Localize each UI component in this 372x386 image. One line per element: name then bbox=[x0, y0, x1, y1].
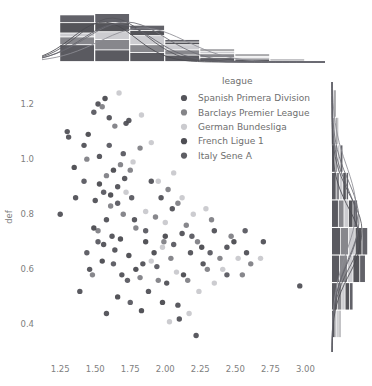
data-point bbox=[185, 278, 190, 283]
data-point bbox=[212, 280, 217, 285]
data-point bbox=[228, 234, 233, 239]
legend-marker-1 bbox=[181, 109, 187, 115]
data-point bbox=[163, 220, 168, 225]
y-tick-label: 0.4 bbox=[20, 319, 34, 329]
right-hist-bar bbox=[338, 118, 339, 144]
right-hist-bar bbox=[340, 311, 341, 337]
x-tick-label: 1.25 bbox=[51, 364, 70, 374]
data-point bbox=[153, 214, 158, 219]
data-point bbox=[212, 228, 217, 233]
top-hist-bar bbox=[130, 53, 164, 61]
data-point bbox=[126, 118, 131, 123]
top-hist-bar bbox=[270, 59, 304, 60]
data-point bbox=[181, 272, 186, 277]
top-hist-bar bbox=[200, 50, 234, 51]
data-point bbox=[111, 167, 116, 172]
x-tick-label: 2.25 bbox=[191, 364, 210, 374]
legend-label-3: French Ligue 1 bbox=[198, 136, 264, 146]
data-point bbox=[139, 308, 144, 313]
data-point bbox=[163, 234, 168, 239]
data-point bbox=[179, 231, 184, 236]
data-point bbox=[143, 228, 148, 233]
data-point bbox=[209, 217, 214, 222]
data-point bbox=[161, 239, 166, 244]
data-point bbox=[128, 300, 133, 305]
data-point bbox=[240, 272, 245, 277]
data-point bbox=[66, 134, 71, 139]
data-point bbox=[167, 319, 172, 324]
data-point bbox=[133, 225, 138, 230]
y-tick-label: 1.2 bbox=[20, 99, 34, 109]
data-point bbox=[146, 289, 151, 294]
data-point bbox=[128, 167, 133, 172]
data-point bbox=[121, 212, 126, 217]
legend-marker-3 bbox=[181, 138, 187, 144]
data-point bbox=[97, 154, 102, 159]
top-hist-bar bbox=[165, 43, 199, 45]
data-point bbox=[220, 267, 225, 272]
data-point bbox=[231, 239, 236, 244]
data-point bbox=[175, 201, 180, 206]
data-point bbox=[188, 250, 193, 255]
y-tick-label: 0.6 bbox=[20, 264, 34, 274]
data-point bbox=[242, 228, 247, 233]
data-point bbox=[84, 156, 89, 161]
data-point bbox=[112, 123, 117, 128]
data-point bbox=[170, 206, 175, 211]
data-point bbox=[133, 267, 138, 272]
data-point bbox=[102, 96, 107, 101]
data-point bbox=[224, 272, 229, 277]
data-point bbox=[104, 311, 109, 316]
legend-title: league bbox=[222, 76, 253, 86]
data-point bbox=[174, 269, 179, 274]
data-point bbox=[156, 178, 161, 183]
data-point bbox=[97, 181, 102, 186]
data-point bbox=[184, 223, 189, 228]
top-hist-bar bbox=[270, 61, 304, 62]
data-point bbox=[91, 225, 96, 230]
data-point bbox=[104, 217, 109, 222]
y-tick-label: 1.0 bbox=[20, 154, 34, 164]
top-hist-bar bbox=[95, 50, 129, 61]
data-point bbox=[297, 283, 302, 288]
right-hist-bar bbox=[346, 283, 350, 309]
data-point bbox=[118, 162, 123, 167]
data-point bbox=[77, 289, 82, 294]
legend-label-0: Spanish Primera Division bbox=[198, 93, 310, 103]
legend-label-2: German Bundesliga bbox=[198, 122, 287, 132]
right-hist-bar bbox=[337, 311, 338, 337]
right-hist-bar bbox=[339, 311, 340, 337]
data-point bbox=[116, 90, 121, 95]
data-point bbox=[115, 184, 120, 189]
data-point bbox=[58, 212, 63, 217]
data-point bbox=[165, 187, 170, 192]
data-point bbox=[121, 151, 126, 156]
data-point bbox=[156, 278, 161, 283]
data-point bbox=[207, 250, 212, 255]
data-point bbox=[179, 195, 184, 200]
data-point bbox=[171, 242, 176, 247]
data-point bbox=[235, 256, 240, 261]
legend-label-4: Italy Sene A bbox=[198, 151, 253, 161]
legend-marker-0 bbox=[181, 95, 187, 101]
data-point bbox=[186, 311, 191, 316]
data-point bbox=[100, 104, 105, 109]
x-tick-label: 1.75 bbox=[121, 364, 140, 374]
data-point bbox=[191, 212, 196, 217]
legend: leagueSpanish Primera DivisionBarclays P… bbox=[181, 76, 310, 161]
axis-labels-group: 1.251.501.752.002.252.502.753.001.21.00.… bbox=[4, 99, 315, 374]
data-point bbox=[196, 289, 201, 294]
legend-label-1: Barclays Premier League bbox=[198, 108, 310, 118]
data-point bbox=[119, 272, 124, 277]
data-point bbox=[108, 203, 113, 208]
data-point bbox=[107, 143, 112, 148]
data-point bbox=[177, 316, 182, 321]
data-point bbox=[90, 272, 95, 277]
data-point bbox=[224, 245, 229, 250]
data-point bbox=[143, 209, 148, 214]
data-point bbox=[86, 132, 91, 137]
data-point bbox=[261, 239, 266, 244]
data-point bbox=[123, 190, 128, 195]
data-point bbox=[151, 250, 156, 255]
data-point bbox=[168, 256, 173, 261]
